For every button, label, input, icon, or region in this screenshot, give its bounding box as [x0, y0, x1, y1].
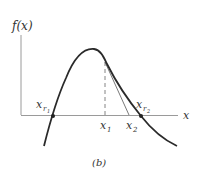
- svg-text:1: 1: [107, 126, 111, 134]
- root1-label: x r 1: [36, 98, 50, 114]
- x1-label: x 1: [100, 119, 111, 134]
- y-axis-label: f(x): [11, 19, 33, 33]
- root1-point: [51, 114, 55, 118]
- svg-text:2: 2: [146, 108, 150, 114]
- root2-point: [139, 114, 143, 118]
- svg-text:x: x: [136, 98, 143, 111]
- tangent-line: [105, 62, 129, 115]
- svg-text:2: 2: [132, 126, 138, 134]
- svg-text:x: x: [100, 119, 107, 132]
- svg-text:1: 1: [47, 108, 50, 114]
- svg-text:x: x: [126, 119, 133, 132]
- x-axis-label: x: [183, 109, 190, 122]
- newton-method-diagram: f(x) x x r 1 x r 2 x 1 x 2 (b): [0, 0, 202, 182]
- x2-label: x 2: [126, 119, 138, 134]
- svg-text:x: x: [36, 98, 43, 111]
- caption: (b): [92, 157, 106, 168]
